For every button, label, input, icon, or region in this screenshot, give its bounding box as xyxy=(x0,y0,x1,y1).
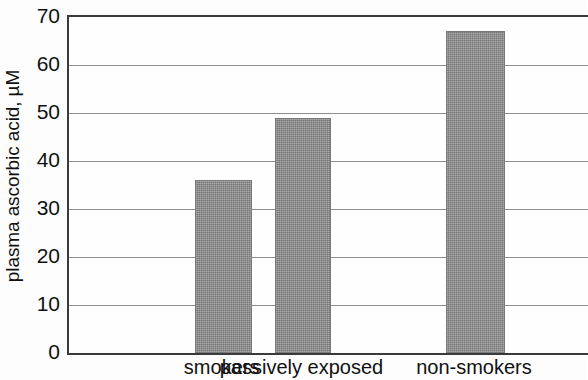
bar-smokers xyxy=(195,180,252,353)
bars-layer xyxy=(69,17,588,353)
y-axis-tick-label: 10 xyxy=(37,293,60,314)
y-axis-title-text: plasma ascorbic acid, µM xyxy=(2,70,24,282)
y-axis-tick-label: 20 xyxy=(37,245,60,266)
bar-non-smokers xyxy=(446,31,505,353)
plot-area xyxy=(67,15,588,355)
bar-passively-exposed xyxy=(275,118,331,353)
y-axis-title: plasma ascorbic acid, µM xyxy=(0,0,26,352)
y-axis-tick-label: 70 xyxy=(37,5,60,26)
y-axis-tick-label: 0 xyxy=(48,341,60,362)
y-axis-tick-label: 40 xyxy=(37,149,60,170)
y-axis-tick-label: 50 xyxy=(37,101,60,122)
y-axis-tick-label: 30 xyxy=(37,197,60,218)
x-axis-tick-label: passively exposed xyxy=(220,354,383,380)
x-axis-tick-label: non-smokers xyxy=(416,354,532,380)
y-axis-tick-labels: 010203040506070 xyxy=(26,0,64,380)
y-axis-tick-label: 60 xyxy=(37,53,60,74)
x-axis-tick-labels: smokerspassively exposednon-smokers xyxy=(67,354,586,380)
